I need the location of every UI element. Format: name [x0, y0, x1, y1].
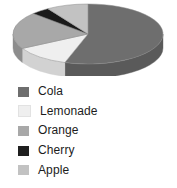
legend-swatch-apple — [18, 165, 29, 175]
pie-chart-svg — [0, 0, 177, 76]
legend-label-orange: Orange — [38, 124, 79, 137]
legend-swatch-lemonade — [18, 105, 31, 117]
legend-label-lemonade: Lemonade — [40, 105, 98, 118]
pie-chart-plot — [0, 0, 177, 76]
legend-swatch-orange — [18, 126, 29, 136]
legend-item-apple[interactable]: Apple — [18, 160, 168, 180]
legend-item-lemonade[interactable]: Lemonade — [18, 102, 168, 122]
legend-item-cherry[interactable]: Cherry — [18, 141, 168, 161]
pie-slice-tops — [13, 4, 163, 64]
legend-label-apple: Apple — [38, 164, 69, 177]
legend-swatch-cherry — [18, 146, 29, 156]
legend-item-cola[interactable]: Cola — [18, 82, 168, 102]
legend-label-cherry: Cherry — [38, 144, 75, 157]
pie-chart-figure: Cola Lemonade Orange Cherry Apple — [0, 0, 177, 188]
legend-swatch-cola — [18, 87, 29, 97]
chart-legend: Cola Lemonade Orange Cherry Apple — [18, 82, 168, 180]
legend-label-cola: Cola — [38, 85, 63, 98]
legend-item-orange[interactable]: Orange — [18, 121, 168, 141]
